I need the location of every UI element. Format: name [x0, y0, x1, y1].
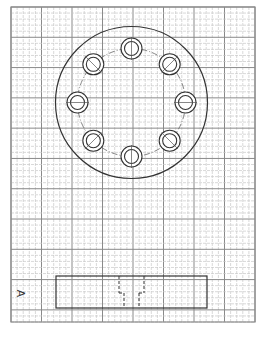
bolt-hole — [159, 54, 180, 75]
bolt-hole — [121, 37, 142, 60]
bolt-hole — [121, 145, 142, 168]
bolt-hole — [66, 92, 89, 113]
bolt-hole — [83, 54, 104, 75]
view-label-a: A — [15, 290, 26, 297]
bolt-hole — [159, 130, 180, 151]
bolt-hole — [83, 130, 104, 151]
bolt-hole — [174, 92, 197, 113]
drawing-sheet — [0, 0, 264, 337]
